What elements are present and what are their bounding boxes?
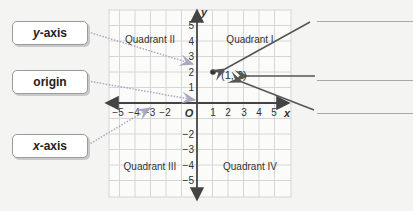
origin-label-text: origin [33,75,66,89]
y-tick: −2 [183,129,195,140]
x-tick: −4 [128,107,140,118]
y-tick: −3 [183,144,195,155]
x-tick: 2 [225,107,231,118]
y-tick: 3 [188,51,194,62]
x-axis-label-text: x-axis [33,139,67,153]
point-label: (1, 2) [221,69,247,81]
x-tick: 1 [210,107,216,118]
x-tick: −5 [112,107,124,118]
quadrant-iv-label: Quadrant IV [223,161,277,172]
y-axis-label: y [200,6,208,18]
y-axis-label-text: y-axis [33,26,67,40]
point-1-2 [210,69,216,75]
y-tick: 4 [188,36,194,47]
x-axis-label-box: x-axis [12,134,88,158]
y-tick: 5 [188,20,194,31]
origin-label-box: origin [12,70,88,94]
answer-line-y-coordinate[interactable] [317,113,413,114]
x-axis-label: x [283,107,291,119]
quadrant-i-label: Quadrant I [226,34,273,45]
y-axis-label-box: y-axis [12,21,88,45]
x-tick: 3 [241,107,247,118]
x-tick: 4 [256,107,262,118]
y-tick: 2 [188,67,194,78]
answer-line-ordered-pair[interactable] [317,21,413,22]
origin-label: O [185,107,194,119]
y-tick: −5 [183,175,195,186]
answer-line-x-coordinate[interactable] [317,80,413,81]
x-tick: −3 [144,107,156,118]
y-tick: −4 [183,160,195,171]
x-tick: −2 [159,107,171,118]
x-tick: 5 [271,107,277,118]
quadrant-iii-label: Quadrant III [124,161,177,172]
y-tick: 1 [188,82,194,93]
quadrant-ii-label: Quadrant II [125,34,175,45]
